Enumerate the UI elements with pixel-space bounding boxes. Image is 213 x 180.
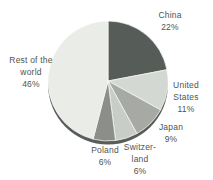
slice-label-poland: Poland 6% [83, 144, 127, 168]
pie-chart-figure: China 22% United States 11% Japan 9% Swi… [0, 0, 213, 180]
slice-label-united-states: United States 11% [164, 79, 208, 115]
slice-label-china: China 22% [145, 9, 195, 33]
slice-label-rest-of-the-world: Rest of the world 46% [5, 54, 57, 90]
